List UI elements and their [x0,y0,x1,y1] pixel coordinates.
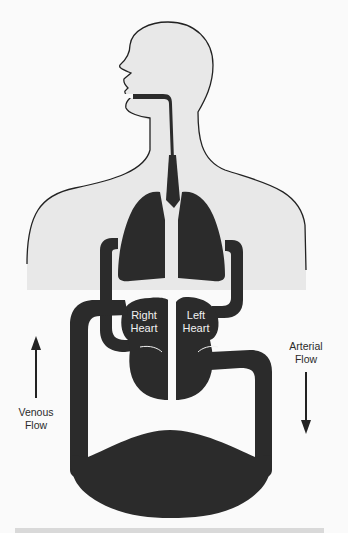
venous-flow-label-line1: Venous [12,406,60,419]
left-heart-label: Left Heart [176,309,216,335]
arterial-flow-label-line2: Flow [280,353,332,366]
left-heart-label-line2: Heart [176,322,216,335]
body-silhouette [27,22,306,290]
left-heart-label-line1: Left [176,309,216,322]
venous-flow-label-line2: Flow [12,419,60,432]
circulation-diagram [0,0,348,533]
arterial-arrow-down-icon [301,420,311,434]
venous-arrow-up-icon [31,336,41,350]
bottom-bar [15,528,324,533]
right-heart-label-line2: Heart [124,322,164,335]
arterial-flow-label-line1: Arterial [280,340,332,353]
systemic-capillary-bed [70,430,272,518]
right-heart-label-line1: Right [124,309,164,322]
right-heart-label: Right Heart [124,309,164,335]
venous-flow-label: Venous Flow [12,406,60,432]
arterial-flow-label: Arterial Flow [280,340,332,366]
